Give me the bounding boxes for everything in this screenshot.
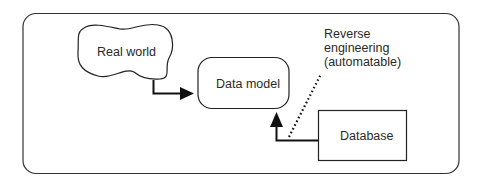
annotation-line-2: engineering: [324, 41, 401, 55]
annotation-line-1: Reverse: [324, 27, 401, 41]
reverse-engineering-annotation: Reverse engineering (automatable): [324, 27, 401, 69]
database-label: Database: [340, 129, 394, 143]
real-world-label: Real world: [97, 45, 156, 59]
reverse-engineering-dotted-line: [289, 74, 321, 137]
arrow-real-world-to-data-model: [154, 80, 195, 100]
annotation-line-3: (automatable): [324, 55, 401, 69]
diagram-canvas: [0, 0, 481, 183]
data-model-label: Data model: [216, 77, 280, 91]
